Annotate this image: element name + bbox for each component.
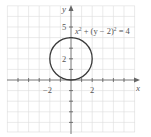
chart: y x −2 2 2 5 x2 + (y − 2)2 = 4 (0, 0, 151, 137)
y-axis-label: y (61, 4, 66, 14)
tick-label-x-neg2: −2 (43, 85, 52, 95)
tick-label-x-2: 2 (90, 85, 94, 95)
equation-label: x2 + (y − 2)2 = 4 (74, 26, 131, 37)
tick-label-y-2: 2 (62, 54, 66, 64)
x-axis-arrow-icon (134, 78, 140, 83)
x-axis-label: x (135, 83, 140, 93)
tick-label-y-5: 5 (62, 22, 66, 32)
